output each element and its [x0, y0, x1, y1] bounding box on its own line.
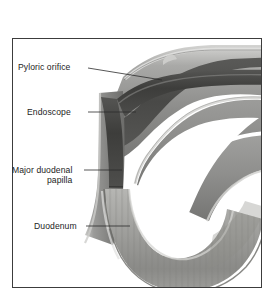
figure-root: Pyloric orifice Endoscope Major duodenal…: [0, 0, 279, 307]
label-papilla-line-1: Major duodenal: [12, 165, 72, 175]
label-major-duodenal-papilla: Major duodenalpapilla: [12, 165, 72, 185]
label-papilla-line-2: papilla: [47, 175, 72, 185]
label-endoscope: Endoscope: [27, 107, 71, 117]
duodenum-endoscope-illustration: [13, 39, 262, 288]
figure-frame: [12, 38, 262, 288]
label-pyloric-orifice: Pyloric orifice: [18, 62, 70, 72]
label-duodenum: Duodenum: [34, 221, 77, 231]
